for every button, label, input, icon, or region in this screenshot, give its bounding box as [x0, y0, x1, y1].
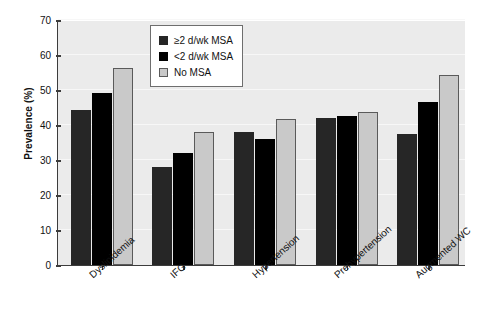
- bar-group: [71, 21, 133, 265]
- bar: [337, 116, 357, 265]
- y-tick-mark: [56, 55, 61, 57]
- y-tick-mark: [56, 265, 61, 267]
- gridline: [58, 19, 465, 20]
- y-tick-mark: [56, 195, 61, 197]
- y-tick-mark: [56, 230, 61, 232]
- black-swatch: [159, 52, 168, 61]
- bar-group: [316, 21, 378, 265]
- bar-group: [397, 21, 459, 265]
- legend-item: ≥2 d/wk MSA: [159, 32, 233, 48]
- y-tick-label: 70: [40, 15, 51, 26]
- y-tick-label: 40: [40, 120, 51, 131]
- y-tick-label: 0: [45, 260, 51, 271]
- legend-label: ≥2 d/wk MSA: [174, 35, 233, 46]
- legend-item: No MSA: [159, 64, 233, 80]
- y-tick-label: 10: [40, 225, 51, 236]
- dark-gray-swatch: [159, 36, 168, 45]
- legend-label: No MSA: [174, 67, 211, 78]
- bar-chart-figure: Prevalence (%) 010203040506070 Dyslipide…: [0, 0, 487, 335]
- y-tick-label: 60: [40, 50, 51, 61]
- bar: [152, 167, 172, 265]
- chart-legend: ≥2 d/wk MSA<2 d/wk MSANo MSA: [150, 25, 243, 87]
- y-tick-label: 20: [40, 190, 51, 201]
- bar-group: [234, 21, 296, 265]
- bar: [397, 134, 417, 265]
- y-tick-mark: [56, 90, 61, 92]
- bar: [255, 139, 275, 265]
- bar: [173, 153, 193, 265]
- y-tick-mark: [56, 20, 61, 22]
- bar: [418, 102, 438, 265]
- y-axis-title: Prevalence (%): [23, 69, 34, 179]
- legend-label: <2 d/wk MSA: [174, 51, 233, 62]
- bar: [316, 118, 336, 265]
- bar: [194, 132, 214, 265]
- y-tick-label: 50: [40, 85, 51, 96]
- bar: [234, 132, 254, 265]
- y-tick-label: 30: [40, 155, 51, 166]
- bar: [71, 110, 91, 265]
- plot-area: 010203040506070: [57, 21, 465, 266]
- y-tick-mark: [56, 160, 61, 162]
- bar: [92, 93, 112, 265]
- legend-item: <2 d/wk MSA: [159, 48, 233, 64]
- light-gray-swatch: [159, 68, 168, 77]
- y-tick-mark: [56, 125, 61, 127]
